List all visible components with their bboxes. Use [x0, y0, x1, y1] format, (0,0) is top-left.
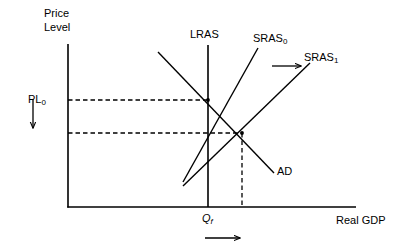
annotation-arrows [33, 66, 301, 238]
x-axis-title: Real GDP [336, 214, 386, 226]
pl0-label: PL0 [28, 93, 46, 109]
curves [158, 45, 310, 207]
lras-label: LRAS [190, 28, 219, 40]
sras0-curve [183, 48, 258, 182]
sras1-label-base: SRAS [304, 51, 334, 63]
y-axis-title-line2: Level [44, 21, 70, 33]
sras1-label: SRAS1 [304, 51, 338, 67]
qf-label: Qf [202, 212, 213, 228]
y-axis-title: Price Level [44, 6, 70, 34]
axis-lines [67, 44, 356, 208]
qf-label-base: Q [202, 212, 211, 224]
diagram-canvas: Price Level Real GDP LRAS SRAS0 SRAS1 AD… [0, 0, 404, 252]
sras0-label-subscript: 0 [283, 37, 287, 46]
y-axis-title-line1: Price [44, 7, 69, 19]
pl0-label-subscript: 0 [41, 98, 45, 107]
sras1-label-subscript: 1 [334, 56, 338, 65]
equilibrium-point-initial [206, 98, 210, 102]
equilibrium-point-new [240, 131, 244, 135]
pl0-label-base: PL [28, 93, 41, 105]
ad-label: AD [277, 165, 292, 177]
qf-label-subscript: f [211, 217, 213, 226]
sras0-label-base: SRAS [253, 32, 283, 44]
sras0-label: SRAS0 [253, 32, 287, 48]
